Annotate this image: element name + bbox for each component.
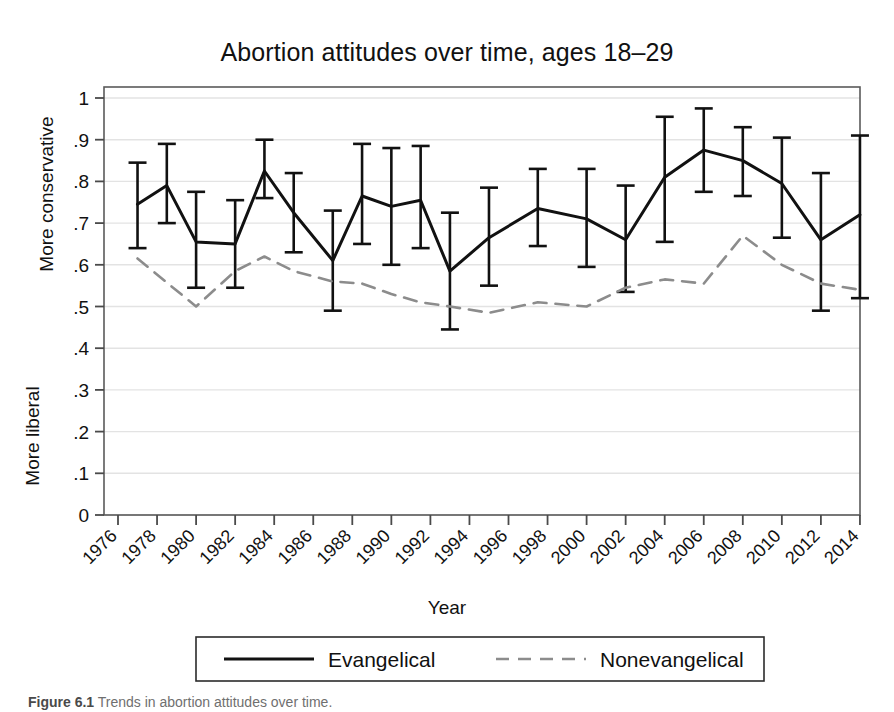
error-bar <box>412 146 430 248</box>
y-tick-label: .6 <box>73 255 89 276</box>
y-tick-label: .4 <box>73 338 89 359</box>
x-tick-label: 2012 <box>781 526 823 568</box>
y-tick-label: .7 <box>73 213 89 234</box>
error-bar <box>851 136 869 299</box>
x-tick-label: 1988 <box>313 526 355 568</box>
x-tick-label: 2004 <box>625 526 667 568</box>
error-bar <box>158 144 176 223</box>
legend-label: Nonevangelical <box>600 648 744 671</box>
x-tick-label: 1978 <box>117 526 159 568</box>
x-tick-label: 1980 <box>156 526 198 568</box>
y-tick-label: .9 <box>73 130 89 151</box>
y-tick-label: 0 <box>78 505 89 526</box>
gridlines <box>104 98 860 515</box>
figure-caption: Figure 6.1 Trends in abortion attitudes … <box>28 694 868 712</box>
data-series <box>138 150 860 313</box>
x-tick-label: 1998 <box>508 526 550 568</box>
chart-plot: 0.1.2.3.4.5.6.7.8.91 1976197819801982198… <box>0 0 894 712</box>
x-tick-label: 1992 <box>391 526 433 568</box>
y-tick-label: .8 <box>73 171 89 192</box>
y-tick-label: 1 <box>78 88 89 109</box>
series-line <box>138 150 860 271</box>
x-tick-label: 1976 <box>78 526 120 568</box>
x-tick-label: 2002 <box>586 526 628 568</box>
caption-label: Figure 6.1 <box>28 694 94 710</box>
x-tick-label: 2008 <box>703 526 745 568</box>
x-tick-label: 1982 <box>196 526 238 568</box>
x-tick-label: 1996 <box>469 526 511 568</box>
x-tick-label: 1984 <box>235 526 277 568</box>
chart-legend: EvangelicalNonevangelical <box>196 637 764 681</box>
x-axis-ticks: 1976197819801982198419861988199019921994… <box>78 515 862 568</box>
x-tick-label: 1986 <box>274 526 316 568</box>
y-tick-label: .5 <box>73 297 89 318</box>
x-tick-label: 1994 <box>430 526 472 568</box>
y-tick-label: .2 <box>73 422 89 443</box>
x-tick-label: 2000 <box>547 526 589 568</box>
error-bar <box>812 173 830 311</box>
error-bars <box>129 108 869 329</box>
x-tick-label: 2010 <box>742 526 784 568</box>
x-tick-label: 1990 <box>352 526 394 568</box>
plot-frame <box>104 87 860 515</box>
figure-container: Abortion attitudes over time, ages 18–29… <box>0 0 894 712</box>
x-tick-label: 2006 <box>664 526 706 568</box>
y-tick-label: .3 <box>73 380 89 401</box>
y-tick-label: .1 <box>73 463 89 484</box>
error-bar <box>353 144 371 244</box>
legend-label: Evangelical <box>328 648 435 671</box>
caption-text: Trends in abortion attitudes over time. <box>98 694 333 710</box>
y-axis-ticks: 0.1.2.3.4.5.6.7.8.91 <box>73 88 104 526</box>
series-line <box>138 236 860 313</box>
x-tick-label: 2014 <box>820 526 862 568</box>
